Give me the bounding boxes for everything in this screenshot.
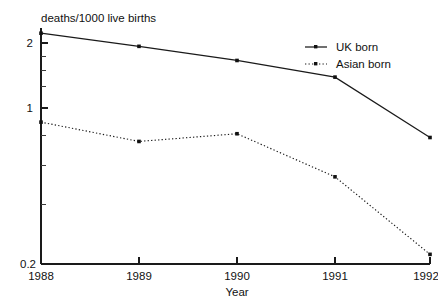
data-point	[333, 75, 337, 79]
data-point	[39, 120, 43, 124]
chart-figure: deaths/1000 live births 2 1 0.2 1988 198…	[0, 0, 438, 302]
data-point	[137, 45, 141, 49]
data-point	[428, 136, 432, 140]
chart-title: deaths/1000 live births	[41, 12, 156, 24]
y-tick-label-0: 2	[27, 37, 33, 49]
legend-marker-asian-born	[314, 62, 317, 65]
data-point	[428, 253, 432, 257]
x-tick-label-3: 1991	[322, 270, 348, 282]
x-axis-label: Year	[225, 286, 248, 298]
series-line-asian-born	[41, 122, 430, 254]
y-tick-label-1: 1	[27, 102, 33, 114]
data-point	[235, 59, 239, 63]
x-tick-label-2: 1990	[224, 270, 250, 282]
x-tick-label-1: 1989	[126, 270, 152, 282]
data-point	[235, 132, 239, 136]
legend-marker-uk-born	[314, 45, 317, 48]
x-tick-label-0: 1988	[28, 270, 54, 282]
data-point	[39, 31, 43, 35]
chart-legend: UK born Asian born	[305, 41, 391, 70]
data-point	[333, 175, 337, 179]
legend-label-asian-born: Asian born	[336, 58, 391, 70]
chart-plot-area: deaths/1000 live births 2 1 0.2 1988 198…	[0, 0, 438, 302]
legend-label-uk-born: UK born	[336, 41, 378, 53]
y-tick-label-2: 0.2	[20, 258, 36, 270]
data-point	[137, 140, 141, 144]
x-tick-label-4: 1992	[413, 270, 438, 282]
